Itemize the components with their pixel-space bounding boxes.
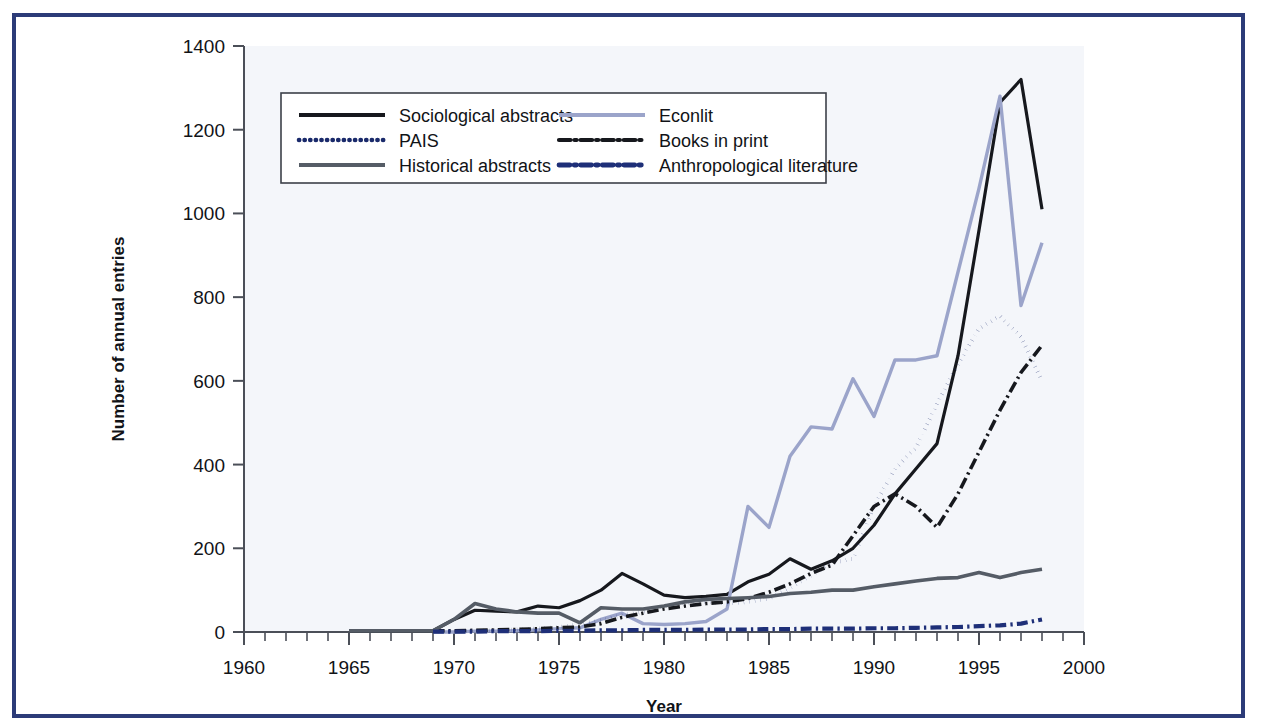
x-axis-title: Year [646, 697, 682, 714]
legend-label-sociological-abstracts[interactable]: Sociological abstracts [399, 106, 573, 126]
legend-label-historical-abstracts[interactable]: Historical abstracts [399, 156, 551, 176]
y-axis-title: Number of annual entries [109, 237, 128, 442]
line-chart: 0200400600800100012001400196019651970197… [16, 17, 1241, 714]
legend-label-books-in-print[interactable]: Books in print [659, 131, 768, 151]
y-tick-label: 800 [193, 287, 225, 308]
y-tick-label: 1400 [183, 36, 225, 57]
x-tick-label: 1970 [433, 657, 475, 678]
y-tick-label: 400 [193, 455, 225, 476]
legend-label-econlit[interactable]: Econlit [659, 106, 713, 126]
figure-frame: 0200400600800100012001400196019651970197… [12, 13, 1245, 718]
y-tick-label: 200 [193, 538, 225, 559]
y-tick-label: 1200 [183, 120, 225, 141]
x-tick-label: 1960 [223, 657, 265, 678]
legend-label-pais[interactable]: PAIS [399, 131, 439, 151]
y-tick-label: 1000 [183, 203, 225, 224]
legend-label-anthropological-literature[interactable]: Anthropological literature [659, 156, 858, 176]
x-tick-label: 1975 [538, 657, 580, 678]
x-tick-label: 1990 [853, 657, 895, 678]
chart-plot-area: 0200400600800100012001400196019651970197… [16, 17, 1241, 714]
y-tick-label: 0 [214, 622, 225, 643]
x-tick-label: 1965 [328, 657, 370, 678]
x-tick-label: 1995 [958, 657, 1000, 678]
x-tick-label: 1980 [643, 657, 685, 678]
x-tick-label: 1985 [748, 657, 790, 678]
x-tick-label: 2000 [1063, 657, 1105, 678]
y-tick-label: 600 [193, 371, 225, 392]
